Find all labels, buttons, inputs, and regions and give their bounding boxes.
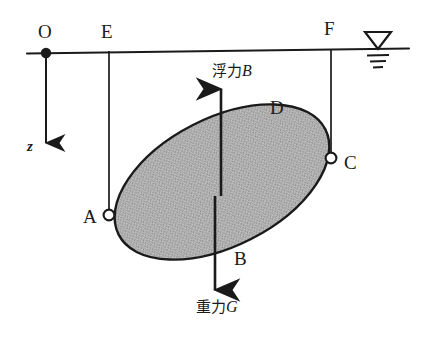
diagram-canvas — [0, 0, 439, 341]
label-point-a: A — [83, 207, 97, 226]
label-z-axis: z — [27, 139, 33, 154]
buoyancy-diagram: O E F z D C A B 浮力B 重力G — [0, 0, 439, 341]
water-surface-line — [27, 49, 409, 54]
label-point-e: E — [101, 22, 113, 41]
label-gravity-force: 重力G — [196, 299, 238, 315]
label-point-f: F — [324, 19, 335, 38]
buoyancy-force-text: 浮力 — [212, 62, 242, 80]
gravity-force-text: 重力 — [196, 298, 226, 316]
point-a-marker — [104, 210, 115, 221]
point-c-marker — [326, 153, 337, 164]
label-buoyancy-force: 浮力B — [212, 63, 252, 79]
label-point-o: O — [38, 22, 52, 41]
gravity-force-symbol: G — [226, 298, 238, 315]
label-point-b: B — [234, 249, 247, 268]
label-point-d: D — [270, 98, 284, 117]
buoyancy-force-symbol: B — [242, 62, 252, 79]
label-point-c: C — [344, 153, 357, 172]
